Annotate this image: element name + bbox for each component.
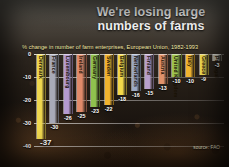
bar-category-label: Ireland bbox=[78, 56, 84, 74]
chart-plot-area: 0-10-20-30-40DenmarkFrance-30Luxembourg-… bbox=[34, 54, 224, 146]
bar-cap bbox=[159, 54, 167, 55]
bar-cap bbox=[186, 54, 194, 55]
bar-denmark[interactable]: Denmark bbox=[36, 54, 46, 139]
bar-category-label: Germany bbox=[92, 56, 98, 79]
bar-category-label: Sweden bbox=[106, 56, 112, 76]
bar-luxembourg[interactable]: Luxembourg bbox=[63, 54, 73, 114]
bar-france[interactable]: France bbox=[49, 54, 59, 123]
bar-category-label: Greece bbox=[201, 56, 207, 74]
bar-value-label: -15 bbox=[145, 90, 153, 96]
gridline: -30 bbox=[34, 123, 224, 124]
y-axis-tick-label: -40 bbox=[23, 143, 31, 149]
bar-finland[interactable]: Finland bbox=[144, 54, 154, 89]
bar-value-label: -22 bbox=[105, 106, 113, 112]
bar-category-label: Finland bbox=[146, 56, 152, 75]
bar-value-label: -9 bbox=[201, 76, 206, 82]
bar-category-label: Denmark bbox=[38, 56, 44, 79]
bar-cap bbox=[132, 54, 140, 55]
bar-netherlands[interactable]: Netherlands bbox=[131, 54, 141, 91]
bar-cap bbox=[118, 54, 126, 55]
bar-value-label: -3 bbox=[215, 62, 220, 68]
bar-value-label: -30 bbox=[50, 124, 58, 130]
bar-belgium[interactable]: Belgium bbox=[117, 54, 127, 95]
bar-cap bbox=[64, 54, 72, 55]
bar-ireland[interactable]: Ireland bbox=[76, 54, 86, 112]
bar-value-label: -10 bbox=[186, 78, 194, 84]
y-axis-tick-label: -10 bbox=[23, 74, 31, 80]
source-note: source: FAO bbox=[193, 145, 220, 150]
bar-category-label: Netherlands bbox=[133, 56, 139, 87]
bar-category-label: United Kingdom bbox=[173, 56, 179, 97]
page-title: We're losing large numbers of farms bbox=[80, 6, 222, 33]
bar-category-label: France bbox=[51, 56, 57, 74]
bar-sweden[interactable]: Sweden bbox=[104, 54, 114, 105]
bar-cap bbox=[213, 54, 221, 55]
bar-value-label: -10 bbox=[173, 78, 181, 84]
bar-value-label: -26 bbox=[64, 115, 72, 121]
bar-cap bbox=[77, 54, 85, 55]
y-axis-tick-label: -30 bbox=[23, 120, 31, 126]
bar-cap bbox=[145, 54, 153, 55]
bar-cap bbox=[200, 54, 208, 55]
y-axis-tick-label: -20 bbox=[23, 97, 31, 103]
bar-cap bbox=[37, 54, 45, 55]
bar-category-label: Luxembourg bbox=[65, 56, 71, 88]
bar-cap bbox=[172, 54, 180, 55]
bar-category-label: Austria bbox=[160, 56, 166, 75]
bar-austria[interactable]: Austria bbox=[158, 54, 168, 84]
bar-value-label: -18 bbox=[118, 96, 126, 102]
bar-united-kingdom[interactable]: United Kingdom bbox=[171, 54, 181, 77]
chart-subtitle: % change in number of farm enterprises, … bbox=[22, 44, 198, 50]
bar-portugal[interactable]: Portugal bbox=[212, 54, 222, 61]
slide-canvas: We're losing large numbers of farms % ch… bbox=[0, 0, 229, 167]
bar-category-label: Italy bbox=[187, 56, 193, 67]
bar-cap bbox=[91, 54, 99, 55]
bar-cap bbox=[50, 54, 58, 55]
y-axis-tick-label: 0 bbox=[28, 51, 31, 57]
bar-category-label: Belgium bbox=[119, 56, 125, 77]
bar-value-label: -23 bbox=[91, 108, 99, 114]
bar-italy[interactable]: Italy bbox=[185, 54, 195, 77]
bar-value-label: -25 bbox=[78, 113, 86, 119]
bar-cap bbox=[105, 54, 113, 55]
bar-germany[interactable]: Germany bbox=[90, 54, 100, 107]
highlight-value-label: -37 bbox=[40, 138, 52, 147]
bar-greece[interactable]: Greece bbox=[199, 54, 209, 75]
bar-value-label: -13 bbox=[159, 85, 167, 91]
bar-value-label: -16 bbox=[132, 92, 140, 98]
